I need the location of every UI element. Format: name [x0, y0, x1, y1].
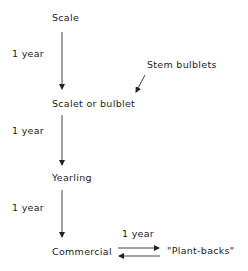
node-commercial: Commercial: [52, 246, 112, 257]
edge-label-commercial-plantbacks: 1 year: [122, 228, 154, 239]
node-scalet-or-bulblet: Scalet or bulblet: [52, 98, 135, 109]
edge-label-scalet-to-yearling: 1 year: [12, 125, 44, 136]
arrow-stem-bulblets: [136, 75, 145, 92]
node-scale: Scale: [52, 12, 79, 23]
node-yearling: Yearling: [52, 172, 92, 183]
edge-label-yearling-to-commercial: 1 year: [12, 202, 44, 213]
node-stem-bulblets: Stem bulblets: [147, 59, 217, 70]
node-plant-backs: "Plant-backs": [167, 245, 235, 256]
edge-label-scale-to-scalet: 1 year: [12, 48, 44, 59]
